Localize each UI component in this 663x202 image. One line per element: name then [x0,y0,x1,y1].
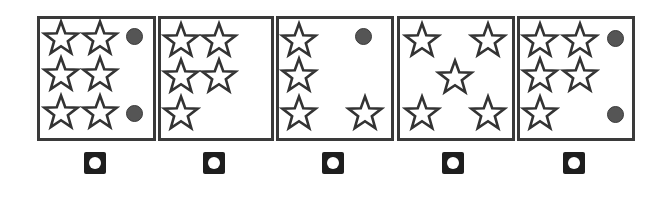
star-icon [521,22,559,58]
option-panel-2 [158,16,274,141]
star-icon [42,56,80,92]
star-icon [403,22,441,58]
filled-circle-icon [126,105,143,122]
star-icon [162,58,200,94]
select-option-2-button[interactable] [203,152,225,174]
filled-circle-icon [355,28,372,45]
star-icon [81,94,119,130]
select-option-1-button[interactable] [84,152,106,174]
option-panel-4 [397,16,515,141]
star-icon [42,94,80,130]
option-panel-1 [37,16,156,141]
star-icon [561,57,599,93]
star-icon [200,22,238,58]
star-icon [162,95,200,131]
radio-circle-icon [208,157,220,169]
star-icon [162,22,200,58]
select-option-5-button[interactable] [563,152,585,174]
star-icon [81,20,119,56]
star-icon [436,59,474,95]
option-panel-3 [276,16,394,141]
radio-circle-icon [568,157,580,169]
star-icon [280,57,318,93]
star-icon [280,22,318,58]
star-icon [469,22,507,58]
star-icon [346,95,384,131]
star-icon [521,57,559,93]
star-icon [561,22,599,58]
radio-circle-icon [447,157,459,169]
star-icon [81,56,119,92]
select-option-3-button[interactable] [322,152,344,174]
filled-circle-icon [607,106,624,123]
radio-circle-icon [327,157,339,169]
filled-circle-icon [126,28,143,45]
star-icon [469,95,507,131]
option-panel-5 [517,16,635,141]
star-icon [200,58,238,94]
star-icon [403,95,441,131]
radio-circle-icon [89,157,101,169]
filled-circle-icon [607,30,624,47]
star-icon [280,95,318,131]
star-icon [521,95,559,131]
select-option-4-button[interactable] [442,152,464,174]
star-icon [42,20,80,56]
